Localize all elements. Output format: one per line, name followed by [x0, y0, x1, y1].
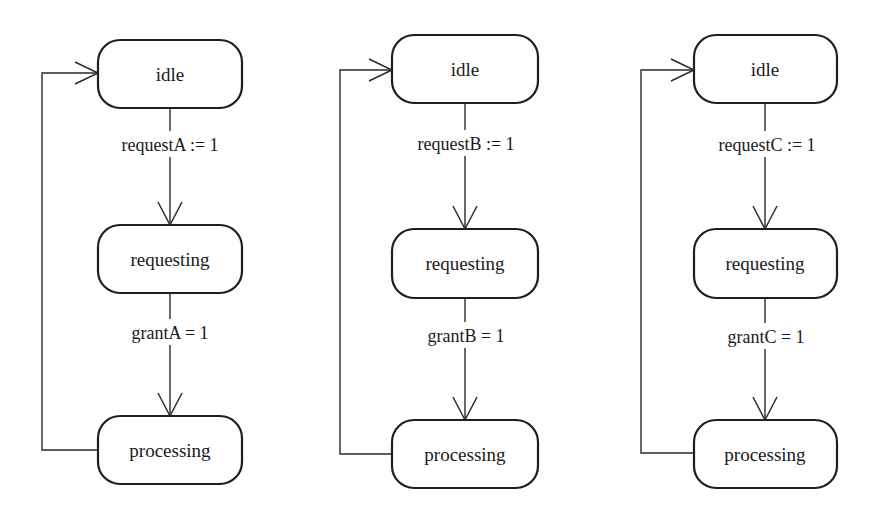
transition-label-request: requestB := 1 — [417, 134, 514, 154]
state-idle-label: idle — [751, 59, 780, 80]
state-requesting-label: requesting — [425, 253, 505, 274]
state-requesting-label: requesting — [130, 249, 210, 270]
state-processing-label: processing — [424, 444, 506, 465]
state-requesting-label: requesting — [725, 253, 805, 274]
state-machine-diagrams: requestA := 1 grantA = 1 idle requesting… — [0, 0, 882, 520]
state-machine-a: requestA := 1 grantA = 1 idle requesting… — [42, 40, 242, 484]
transition-label-grant: grantC = 1 — [727, 327, 804, 347]
state-machine-c: requestC := 1 grantC = 1 idle requesting… — [641, 35, 837, 488]
loop-edge-processing-to-idle — [42, 73, 98, 450]
state-processing-label: processing — [724, 444, 806, 465]
transition-label-request: requestA := 1 — [121, 135, 218, 155]
loop-edge-processing-to-idle — [641, 70, 694, 453]
state-idle-label: idle — [156, 64, 185, 85]
transition-label-request: requestC := 1 — [718, 135, 815, 155]
transition-label-grant: grantA = 1 — [131, 323, 208, 343]
state-processing-label: processing — [129, 440, 211, 461]
loop-edge-processing-to-idle — [340, 70, 392, 454]
state-idle-label: idle — [451, 59, 480, 80]
transition-label-grant: grantB = 1 — [427, 326, 504, 346]
state-machine-b: requestB := 1 grantB = 1 idle requesting… — [340, 35, 538, 488]
